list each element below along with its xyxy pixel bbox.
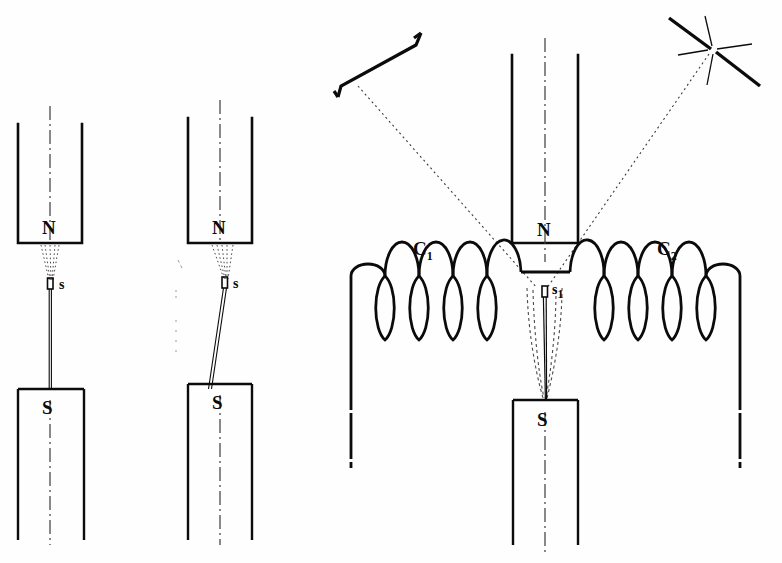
diagram-svg: s N S s xyxy=(0,0,782,563)
north-pole-label-left: N xyxy=(42,217,56,238)
south-pole-label-left: S xyxy=(42,397,53,418)
north-pole-label-right: N xyxy=(537,219,551,240)
south-pole-label-middle: S xyxy=(212,392,223,413)
figure-canvas: s N S s xyxy=(0,0,782,563)
specimen-label-middle: s xyxy=(233,276,239,291)
background xyxy=(0,0,782,563)
south-pole-label-right: S xyxy=(537,409,548,430)
north-pole-label-middle: N xyxy=(212,217,226,238)
specimen-label-left: s xyxy=(59,277,65,292)
